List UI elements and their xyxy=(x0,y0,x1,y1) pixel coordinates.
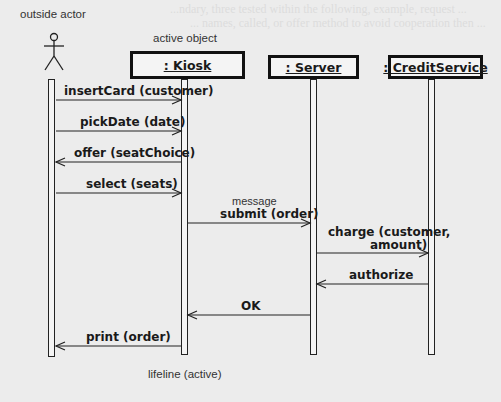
message-charge-label-line2: amount) xyxy=(370,238,427,252)
message-authorize-label: authorize xyxy=(349,268,413,282)
message-submit-label: submit (order) xyxy=(220,207,319,221)
message-offer-label: offer (seatChoice) xyxy=(74,146,195,160)
message-pickdate-label: pickDate (date) xyxy=(80,115,185,129)
message-insertcard-label: insertCard (customer) xyxy=(64,84,214,98)
message-ok-label: OK xyxy=(241,299,261,313)
message-arrows xyxy=(0,0,501,402)
message-select-label: select (seats) xyxy=(86,177,178,191)
message-print-label: print (order) xyxy=(86,330,171,344)
message-charge-label: charge (customer, xyxy=(328,225,450,239)
